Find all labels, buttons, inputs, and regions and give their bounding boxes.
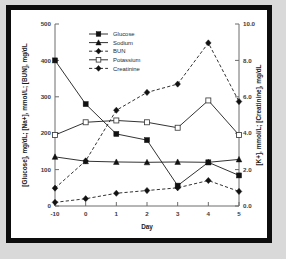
- plot-area-wrapper: 01002003004005000.02.04.06.08.010.0-1001…: [11, 10, 267, 238]
- y-tick-label: 500: [41, 20, 52, 27]
- legend-label: BUN: [113, 48, 125, 54]
- data-point: [83, 102, 88, 107]
- data-point: [237, 173, 242, 178]
- x-tick-label: 0: [84, 210, 88, 217]
- y2-tick-label: 4.0: [243, 129, 252, 136]
- line-chart: 01002003004005000.02.04.06.08.010.0-1001…: [11, 10, 267, 238]
- y-tick-label: 200: [41, 129, 52, 136]
- y2-tick-label: 10.0: [243, 20, 256, 27]
- data-point: [53, 58, 58, 63]
- x-tick-label: 2: [145, 210, 149, 217]
- data-point: [175, 125, 180, 130]
- y2-axis-title: [K+], mmol/L; [Creatinine], mg/dL: [255, 64, 263, 165]
- data-point: [145, 138, 150, 143]
- legend-label: Creatinine: [113, 66, 141, 72]
- y-tick-label: 0: [48, 202, 52, 209]
- legend-label: Sodium: [113, 40, 133, 46]
- y-tick-label: 400: [41, 57, 52, 64]
- y-axis-title: [Glucose], mg/dL; [Na+], mmol/L; [BUN], …: [21, 43, 29, 186]
- x-axis-title: Day: [141, 223, 153, 231]
- legend-item-potassium: Potassium: [89, 57, 141, 63]
- data-point: [114, 131, 119, 136]
- legend-label: Glucose: [113, 31, 135, 37]
- y-tick-label: 300: [41, 93, 52, 100]
- data-point: [83, 120, 88, 125]
- x-tick-label: 1: [115, 210, 119, 217]
- y2-tick-label: 2.0: [243, 166, 252, 173]
- data-point: [237, 133, 242, 138]
- x-tick-label: 4: [207, 210, 211, 217]
- y2-tick-label: 0.0: [243, 202, 252, 209]
- chart-frame: 01002003004005000.02.04.06.08.010.0-1001…: [6, 5, 272, 243]
- x-tick-label: 5: [237, 210, 241, 217]
- y-tick-label: 100: [41, 166, 52, 173]
- legend-label: Potassium: [113, 57, 141, 63]
- legend-item-glucose: Glucose: [89, 31, 135, 37]
- x-tick-label: -10: [51, 210, 61, 217]
- data-point: [145, 120, 150, 125]
- data-point: [96, 32, 101, 37]
- data-point: [114, 118, 119, 123]
- y2-tick-label: 6.0: [243, 93, 252, 100]
- data-point: [96, 58, 101, 63]
- data-point: [53, 133, 58, 138]
- figure-container: 01002003004005000.02.04.06.08.010.0-1001…: [0, 0, 286, 259]
- x-tick-label: 3: [176, 210, 180, 217]
- y2-tick-label: 8.0: [243, 57, 252, 64]
- data-point: [206, 98, 211, 103]
